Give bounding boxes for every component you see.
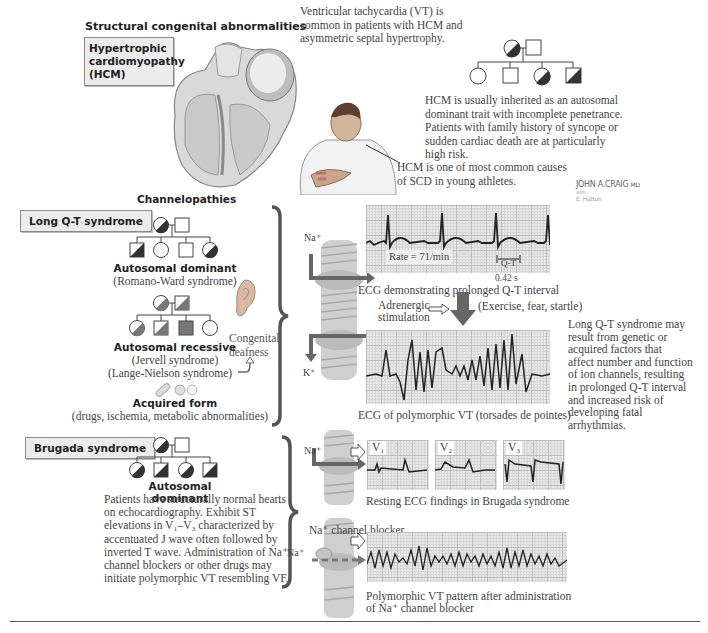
qt-interval-label: Q-T: [501, 259, 516, 268]
summary-line: arrhythmias.: [568, 419, 708, 432]
inheritance-note-line: sudden cardiac death are at particularly: [425, 135, 645, 149]
bottom-divider: [10, 621, 700, 622]
ecg-lead-v1: V₁: [367, 440, 429, 490]
lead-v1-label: V₁: [370, 441, 386, 455]
inheritance-note-line: high risk.: [425, 148, 645, 162]
ecg-rate-label: Rate = 71/min: [386, 250, 452, 264]
brugada-line: Patients have structurally normal hearts: [104, 493, 289, 506]
long-qt-dominant-sub: (Romano-Ward syndrome): [105, 275, 245, 289]
brugada-vt-caption: Polymorphic VT pattern after administrat…: [366, 590, 571, 614]
signature-name: JOHN A.CRAIG: [576, 180, 628, 189]
long-qt-dominant-title: Autosomal dominant: [110, 262, 240, 274]
hollow-arrow-icon: [428, 303, 450, 315]
pills-icon: [153, 383, 199, 397]
summary-line: in prolonged Q-T interval: [568, 381, 708, 394]
summary-line: result from genetic or: [568, 331, 708, 344]
long-qt-recessive-sub2: (Lange-Nielson syndrome): [100, 367, 240, 381]
brugada-vt-caption-line: of Na⁺ channel blocker: [366, 602, 571, 614]
lead-v2-label: V₂: [438, 441, 454, 455]
brugada-ion-na: Na⁺: [304, 444, 321, 458]
lead-v3-label: V₃: [506, 441, 522, 455]
hcm-line: (HCM): [89, 68, 169, 81]
brugada-description: Patients have structurally normal hearts…: [104, 493, 289, 585]
long-qt-brace: [270, 205, 290, 427]
heart-illustration: [160, 35, 300, 193]
ecg-torsades: [366, 330, 550, 404]
hcm-line: cardiomyopathy: [89, 55, 169, 68]
ion-na-label: Na⁺: [304, 231, 321, 245]
signature-suffix: MD: [631, 181, 640, 188]
brugada-resting-caption: Resting ECG findings in Brugada syndrome: [366, 495, 569, 509]
acquired-title: Acquired form: [120, 397, 230, 409]
curved-arrow-icon: [238, 356, 256, 376]
hcm-pedigree: [465, 38, 605, 86]
brugada-line: on echocardiography. Exhibit ST: [104, 506, 289, 519]
ion-k-label: K⁺: [303, 366, 315, 380]
inheritance-note-line: Patients with family history of syncope …: [425, 121, 645, 135]
adrenergic-line: stimulation: [378, 311, 430, 323]
brugada-line: channel blockers or other drugs may: [104, 559, 289, 572]
down-arrow-icon: [450, 292, 476, 326]
brugada-ion-na2: Na⁺: [287, 546, 304, 560]
long-qt-summary: Long Q-T syndrome may result from geneti…: [568, 318, 708, 431]
brugada-line: initiate polymorphic VT resembling VF.: [104, 572, 289, 585]
brugada-brace: [280, 435, 300, 589]
long-qt-recessive-sub1: (Jervell syndrome): [105, 354, 245, 368]
ecg-lead-v2: V₂: [435, 440, 497, 490]
vt-note-line: common in patients with HCM and: [300, 19, 500, 33]
long-qt-recessive-title: Autosomal recessive: [110, 341, 240, 353]
ecg-lead-v3: V₃: [503, 440, 565, 490]
qt-value: 0.42 s: [495, 273, 518, 283]
ecg-brugada-vt: [367, 532, 567, 582]
athlete-note-line: of SCD in young athletes.: [397, 175, 597, 189]
hollow-arrow-icon: [350, 443, 366, 461]
hcm-line: Hypertrophic: [89, 42, 169, 55]
vt-note-line: Ventricular tachycardia (VT) is: [300, 5, 500, 19]
summary-line: affect number and function: [568, 356, 708, 369]
inheritance-note-line: HCM is usually inherited as an autosomal: [425, 94, 645, 108]
ear-icon: [233, 278, 257, 318]
ion-channel-illustration-long-qt: [305, 240, 375, 380]
adrenergic-label: Adrenergic stimulation: [378, 299, 430, 323]
inheritance-note: HCM is usually inherited as an autosomal…: [425, 94, 645, 162]
athlete-note-line: HCM is one of most common causes: [397, 161, 597, 175]
long-qt-dominant-pedigree: [125, 215, 225, 263]
brugada-vt-caption-line: Polymorphic VT pattern after administrat…: [366, 590, 571, 602]
adrenergic-line: Adrenergic: [378, 299, 430, 311]
acquired-sub: (drugs, ischemia, metabolic abnormalitie…: [70, 410, 270, 424]
summary-line: Long Q-T syndrome may: [568, 318, 708, 331]
summary-line: acquired factors that: [568, 343, 708, 356]
long-qt-recessive-pedigree: [125, 293, 225, 341]
athlete-note: HCM is one of most common causes of SCD …: [397, 161, 597, 188]
summary-line: of ion channels, resulting: [568, 368, 708, 381]
trigger-examples: (Exercise, fear, startle): [478, 300, 582, 314]
brugada-line: inverted T wave. Administration of Na⁺: [104, 546, 289, 559]
channelopathies-heading: Channelopathies: [137, 193, 236, 205]
brugada-pedigree: [125, 435, 225, 483]
ecg-prolonged-qt: Rate = 71/min Q-T: [366, 205, 550, 273]
inheritance-note-line: dominant trait with incomplete penetranc…: [425, 108, 645, 122]
summary-line: developing fatal: [568, 406, 708, 419]
summary-line: and increased risk of: [568, 394, 708, 407]
signature-coauthor: E. Hatton: [576, 195, 640, 202]
ecg2-caption: ECG of polymorphic VT (torsades de point…: [358, 409, 571, 423]
brugada-line: accentuated J wave often followed by: [104, 533, 289, 546]
hollow-arrow-icon: [350, 532, 366, 550]
structural-heading: Structural congenital abnormalities: [85, 20, 306, 33]
athlete-illustration: [296, 95, 406, 195]
brugada-line: elevations in V₁–V₃ characterized by: [104, 519, 289, 532]
signature: JOHN A.CRAIG MD with E. Hatton: [576, 180, 640, 202]
